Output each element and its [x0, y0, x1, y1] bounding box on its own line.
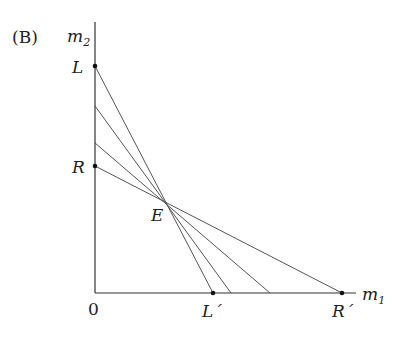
label-R: R: [71, 157, 85, 177]
label-origin: 0: [88, 299, 99, 319]
point-Lprime: [211, 291, 216, 296]
panel-label: (B): [12, 27, 38, 47]
y-axis-label: m2: [67, 26, 90, 49]
point-R: [93, 164, 98, 169]
budget-line-diagram: (B) m2 m1 L R E 0 L´ R´: [0, 0, 405, 339]
label-Lprime: L´: [201, 301, 222, 321]
label-Rprime: R´: [331, 301, 354, 321]
line-R-Rprime: [95, 166, 342, 293]
line-mid-2: [95, 143, 270, 293]
line-L-Lprime: [95, 66, 213, 293]
point-L: [93, 64, 98, 69]
label-E: E: [150, 205, 164, 225]
x-axis-label: m1: [362, 284, 385, 307]
label-L: L: [71, 57, 83, 77]
line-mid-1: [95, 106, 231, 293]
point-Rprime: [340, 291, 345, 296]
